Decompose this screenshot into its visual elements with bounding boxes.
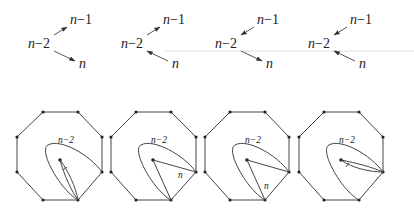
arrow-in-down-icon [334, 27, 347, 35]
octagon-panel-3: n−2 n [203, 110, 290, 201]
label-n-minus-1: n−1 [257, 12, 279, 27]
label-n-minus-2: n−2 [215, 36, 237, 51]
arrow-out-down-icon [241, 51, 262, 61]
octagon-outline [205, 112, 289, 200]
label-n: n [79, 56, 86, 71]
octagon-panel-2: n−2 n [109, 110, 197, 201]
chord-b [247, 160, 289, 172]
chord-a [60, 160, 78, 200]
orientation-panel-3: n−2 n−1 n [215, 12, 279, 71]
arrow-out-down-icon [54, 51, 75, 61]
arrow-in-up-icon [334, 51, 355, 61]
arrow-in-down-icon [241, 27, 254, 35]
label-n-minus-1: n−1 [70, 12, 92, 27]
octagon-outline [299, 112, 383, 200]
loop-label: n−2 [339, 135, 355, 145]
label-n-minus-1: n−1 [163, 12, 185, 27]
octagon-vertices [203, 110, 290, 201]
octagon-vertices [109, 110, 197, 201]
octagon-panel-4: n−2 [297, 110, 384, 201]
chord-label: n [264, 181, 269, 191]
octagon-vertices [297, 110, 384, 201]
arrow-out-up-icon [54, 27, 67, 35]
octagon-vertices [15, 110, 103, 201]
label-n-minus-2: n−2 [308, 36, 330, 51]
label-n-minus-2: n−2 [28, 36, 50, 51]
arrow-in-up-icon [147, 51, 168, 61]
diagram-canvas: n−2 n−1 n n−2 n−1 n n−2 n−1 n n−2 n−1 n [0, 0, 414, 217]
orientation-panel-4: n−2 n−1 n [308, 12, 372, 71]
loop-label: n−2 [151, 135, 167, 145]
arrow-out-up-icon [147, 27, 160, 35]
label-n: n [266, 56, 273, 71]
label-n: n [172, 56, 179, 71]
loop-label: n−2 [58, 135, 74, 145]
octagon-outline [111, 112, 196, 200]
chord-b [153, 160, 196, 172]
chord-a [247, 160, 265, 200]
orientation-panel-2: n−2 n−1 n [121, 12, 185, 71]
chord-a [153, 160, 171, 200]
label-n-minus-1: n−1 [350, 12, 372, 27]
loop-curve [45, 143, 102, 200]
octagon-outline [17, 112, 102, 200]
chord-label: n [178, 170, 183, 180]
label-n: n [359, 56, 366, 71]
loop-label: n−2 [245, 135, 261, 145]
orientation-panel-1: n−2 n−1 n [28, 12, 92, 71]
octagon-panel-1: n−2 [15, 110, 103, 201]
label-n-minus-2: n−2 [121, 36, 143, 51]
chord-b [60, 160, 78, 200]
